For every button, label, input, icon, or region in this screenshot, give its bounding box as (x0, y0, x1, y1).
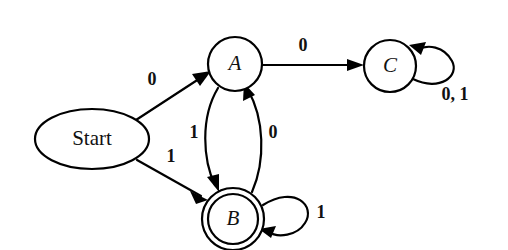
node-c[interactable]: C (364, 40, 416, 92)
state-machine-diagram: 0 1 1 0 0 1 0, 1 Start (0, 0, 508, 250)
edge-a-to-c: 0 (262, 35, 364, 71)
edge-start-to-b-arrowhead (190, 191, 208, 204)
edge-a-to-c-label: 0 (299, 35, 308, 55)
edge-start-to-b: 1 (137, 146, 208, 204)
edge-c-self-loop: 0, 1 (409, 42, 469, 104)
edge-a-to-b-curve (205, 88, 218, 185)
edge-c-self-loop-label: 0, 1 (442, 84, 469, 104)
edge-start-to-a-arrowhead (192, 71, 211, 86)
edge-b-to-a-curve (248, 90, 261, 192)
node-c-label: C (383, 53, 398, 77)
node-a[interactable]: A (208, 37, 262, 91)
edge-start-to-a-label: 0 (148, 69, 157, 89)
edge-a-to-b-label: 1 (190, 122, 199, 142)
node-b[interactable]: B (202, 188, 264, 250)
edge-a-to-b-arrowhead (207, 174, 219, 192)
edge-a-to-c-arrowhead (347, 59, 364, 71)
node-start[interactable]: Start (35, 109, 149, 169)
edge-start-to-a-line (136, 75, 205, 120)
edge-start-to-a: 0 (136, 69, 211, 120)
edge-b-self-loop: 1 (259, 197, 326, 238)
edge-b-to-a: 0 (243, 83, 278, 192)
edge-b-to-a-label: 0 (269, 122, 278, 142)
edge-start-to-b-label: 1 (167, 146, 176, 166)
node-a-label: A (227, 51, 242, 75)
node-b-label: B (227, 206, 240, 230)
edge-b-self-loop-label: 1 (317, 202, 326, 222)
node-start-label: Start (72, 126, 112, 150)
edge-a-to-b: 1 (190, 88, 220, 192)
